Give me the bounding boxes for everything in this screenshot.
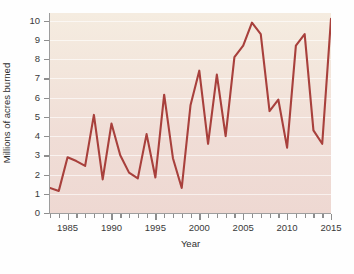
x-axis-tick-minor [191,214,192,218]
x-axis-tick-label: 2010 [277,223,298,233]
x-axis-tick-minor [76,214,77,218]
series-line [50,13,331,213]
y-axis-tick [44,98,49,99]
x-axis-tick-minor [120,214,121,218]
x-axis-tick-label: 2000 [189,223,210,233]
x-axis-tick-minor [252,214,253,218]
x-axis-tick-minor [278,214,279,218]
y-axis-tick [44,155,49,156]
y-axis-tick-label: 5 [35,112,40,122]
x-axis-tick-minor [217,214,218,218]
x-axis-tick-minor [182,214,183,218]
x-axis-tick-minor [138,214,139,218]
y-axis-tick [44,21,49,22]
y-axis-line [49,13,50,214]
y-axis-ticks: 012345678910 [0,0,49,274]
x-axis-tick-label: 1985 [57,223,78,233]
y-axis-tick-label: 8 [35,54,40,64]
y-axis-tick [44,117,49,118]
y-axis-tick [44,175,49,176]
x-axis-tick-minor [234,214,235,218]
x-axis-tick-minor [50,214,51,218]
x-axis-tick-major [243,214,244,220]
x-axis-tick-minor [261,214,262,218]
plot-area [50,13,331,213]
x-axis-tick-label: 2005 [233,223,254,233]
x-axis-tick-label: 1995 [145,223,166,233]
x-axis-tick-minor [270,214,271,218]
y-axis-tick-label: 4 [35,131,40,141]
x-axis-tick-label: 2015 [320,223,341,233]
y-axis-tick [44,78,49,79]
x-axis-ticks: 1985199019952000200520102015 [0,214,354,226]
x-axis-tick-major [331,214,332,220]
x-axis-tick-minor [226,214,227,218]
x-axis-tick-minor [305,214,306,218]
y-axis-tick [44,59,49,60]
x-axis-tick-minor [313,214,314,218]
y-axis-tick [44,136,49,137]
x-axis-tick-minor [296,214,297,218]
x-axis-tick-minor [164,214,165,218]
y-axis-tick-label: 1 [35,189,40,199]
x-axis-tick-minor [59,214,60,218]
x-axis-tick-minor [147,214,148,218]
x-axis-tick-major [68,214,69,220]
y-axis-tick-label: 2 [35,170,40,180]
x-axis-tick-minor [94,214,95,218]
x-axis-tick-major [199,214,200,220]
x-axis-tick-major [155,214,156,220]
y-axis-tick-label: 10 [29,16,40,26]
x-axis-tick-minor [208,214,209,218]
x-axis-tick-major [111,214,112,220]
x-axis-label: Year [50,238,331,249]
wildfire-acres-burned-chart: Millions of acres burned 012345678910 19… [0,0,354,274]
y-axis-tick-label: 6 [35,93,40,103]
x-axis-tick-minor [85,214,86,218]
y-axis-tick-label: 7 [35,74,40,84]
x-axis-tick-minor [322,214,323,218]
x-axis-tick-label: 1990 [101,223,122,233]
y-axis-tick-label: 9 [35,35,40,45]
y-axis-tick [44,40,49,41]
y-axis-tick-label: 3 [35,151,40,161]
x-axis-tick-major [287,214,288,220]
y-axis-tick [44,194,49,195]
x-axis-tick-minor [129,214,130,218]
x-axis-tick-minor [103,214,104,218]
x-axis-tick-minor [173,214,174,218]
